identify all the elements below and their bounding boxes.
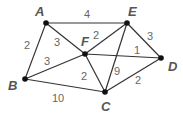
node-label-D: D bbox=[168, 59, 178, 74]
edge-F-D bbox=[85, 54, 161, 58]
edge-weight-F-D: 1 bbox=[134, 44, 140, 56]
edge-B-F bbox=[25, 54, 85, 79]
edge-weight-B-F: 3 bbox=[44, 55, 50, 67]
node-label-E: E bbox=[128, 4, 137, 19]
node-label-B: B bbox=[8, 78, 17, 93]
edge-weight-C-D: 2 bbox=[135, 74, 141, 86]
edge-weight-E-D: 3 bbox=[147, 30, 153, 42]
edge-weight-A-E: 4 bbox=[84, 8, 90, 20]
weighted-graph: 432310212932 AEFBDC bbox=[0, 0, 183, 114]
node-E bbox=[124, 20, 130, 26]
node-D bbox=[158, 55, 164, 61]
edge-E-D bbox=[127, 23, 161, 58]
node-label-A: A bbox=[34, 4, 44, 19]
edge-weight-F-E: 2 bbox=[93, 29, 99, 41]
node-A bbox=[43, 20, 49, 26]
edge-weight-B-C: 10 bbox=[52, 92, 64, 104]
edge-A-B bbox=[25, 23, 46, 79]
node-C bbox=[102, 89, 108, 95]
edge-B-C bbox=[25, 79, 105, 92]
node-label-C: C bbox=[101, 99, 111, 114]
node-labels: AEFBDC bbox=[8, 4, 178, 114]
edge-F-E bbox=[85, 23, 127, 54]
node-F bbox=[82, 51, 88, 57]
edge-weight-F-C: 2 bbox=[81, 70, 87, 82]
node-B bbox=[22, 76, 28, 82]
edge-A-F bbox=[46, 23, 85, 54]
edge-E-C bbox=[105, 23, 127, 92]
edge-weight-E-C: 9 bbox=[114, 65, 120, 77]
edge-weight-A-B: 2 bbox=[24, 39, 30, 51]
node-label-F: F bbox=[81, 34, 90, 49]
edge-weight-A-F: 3 bbox=[54, 36, 60, 48]
edge-F-C bbox=[85, 54, 105, 92]
